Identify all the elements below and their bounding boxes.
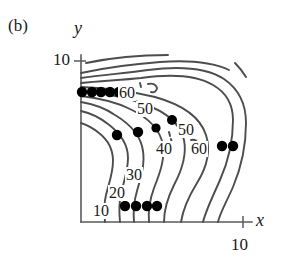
data-point: [96, 87, 106, 97]
x-axis-tick-label: 10: [231, 236, 248, 253]
data-point: [112, 130, 122, 140]
data-point: [120, 201, 130, 211]
data-point: [77, 87, 87, 97]
data-point: [228, 141, 238, 151]
contour-label: 20: [108, 185, 126, 201]
data-point: [151, 123, 160, 132]
contour-tick-mark-a: [140, 83, 141, 87]
panel-label: (b): [8, 17, 28, 34]
y-axis-label: y: [74, 19, 82, 37]
contour-label: 40: [155, 141, 173, 157]
x-axis-label: x: [256, 211, 264, 229]
contour-label: 50: [136, 101, 154, 117]
y-axis-tick-label: 10: [53, 51, 70, 68]
contour-label: 30: [125, 167, 143, 183]
contour-hook-60-label: [148, 84, 157, 93]
contour-label: 60: [118, 85, 136, 101]
contour-label: 60: [190, 141, 208, 157]
data-point: [152, 201, 162, 211]
contour-plot-figure: (b) y x 10 10 60 50 50 40 60 30 20 10: [0, 0, 284, 271]
contour-label: 50: [177, 122, 195, 138]
data-point: [131, 201, 141, 211]
data-point: [105, 87, 115, 97]
contour-label: 10: [92, 203, 110, 219]
data-point: [133, 127, 143, 137]
contour-plot-canvas: [0, 0, 284, 271]
data-point: [87, 87, 97, 97]
data-point: [217, 141, 227, 151]
data-point: [142, 201, 152, 211]
data-point: [167, 115, 177, 125]
contour-lines: [81, 55, 246, 222]
contour-tick-mark-c: [169, 132, 170, 136]
contour-fragment-top-right: [235, 63, 246, 77]
